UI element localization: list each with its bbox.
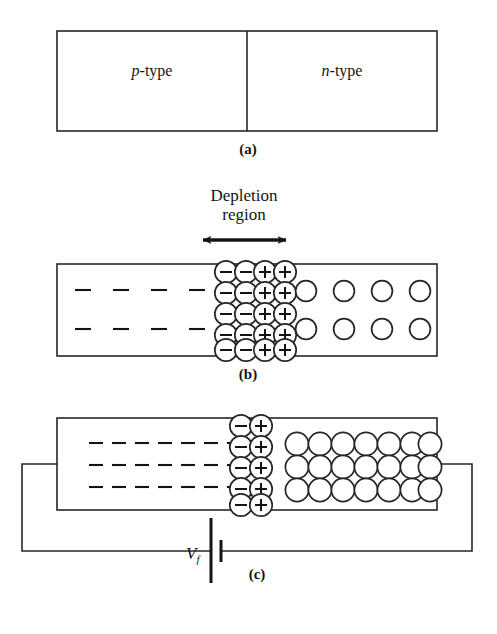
electron-circle xyxy=(418,455,441,478)
electron-circle xyxy=(285,432,308,455)
ion-negative xyxy=(215,339,237,361)
panel-b-label: (b) xyxy=(218,366,278,383)
panel-b-negative-ions xyxy=(215,261,257,361)
electron-circle xyxy=(285,478,308,501)
panel-c-label: (c) xyxy=(227,566,287,583)
electron-circle xyxy=(354,455,377,478)
electron-circle xyxy=(418,478,441,501)
panel-c-negative-ions xyxy=(230,415,252,516)
electron-circle xyxy=(377,432,400,455)
panel-c-group xyxy=(22,415,472,583)
forward-voltage-label: Vf xyxy=(186,544,199,565)
pn-junction-figure: p-type n-type (a) Depletion region (b) V… xyxy=(0,0,497,634)
ion-positive xyxy=(254,339,276,361)
panel-b-depletion-region xyxy=(215,261,296,361)
n-type-label: n-type xyxy=(297,62,387,80)
depletion-region-label-line1: Depletion xyxy=(184,186,304,205)
battery-symbol xyxy=(211,518,221,583)
ion-positive xyxy=(250,494,272,516)
ion-positive xyxy=(250,436,272,458)
electron-circle xyxy=(331,432,354,455)
ion-positive xyxy=(254,261,276,283)
depletion-region-label: Depletion region xyxy=(184,186,304,224)
electron-circle xyxy=(285,455,308,478)
p-type-label-italic: p xyxy=(132,62,140,79)
ion-positive xyxy=(250,457,272,479)
electron-circle xyxy=(354,478,377,501)
ion-negative xyxy=(230,415,252,437)
panel-b-positive-ions xyxy=(254,261,296,361)
ion-negative xyxy=(230,494,252,516)
panel-c-n-side-carriers xyxy=(285,432,441,501)
ion-positive xyxy=(274,339,296,361)
ion-positive xyxy=(274,303,296,325)
ion-positive xyxy=(274,261,296,283)
electron-circle xyxy=(296,319,317,340)
ion-positive xyxy=(254,282,276,304)
electron-circle xyxy=(377,478,400,501)
electron-circle xyxy=(308,478,331,501)
ion-negative xyxy=(230,436,252,458)
ion-positive xyxy=(274,282,296,304)
depletion-region-label-line2: region xyxy=(184,205,304,224)
ion-negative xyxy=(215,303,237,325)
p-type-label-rest: -type xyxy=(140,62,173,79)
electron-circle xyxy=(331,455,354,478)
ion-negative xyxy=(215,282,237,304)
ion-negative xyxy=(230,457,252,479)
electron-circle xyxy=(418,432,441,455)
panel-c-depletion-region xyxy=(230,415,272,516)
electron-circle xyxy=(334,281,355,302)
figure-canvas xyxy=(0,0,497,634)
electron-circle xyxy=(410,319,431,340)
electron-circle xyxy=(308,432,331,455)
electron-circle xyxy=(377,455,400,478)
electron-circle xyxy=(410,281,431,302)
panel-a-group xyxy=(57,31,437,131)
ion-positive xyxy=(254,303,276,325)
electron-circle xyxy=(372,281,393,302)
panel-a-label: (a) xyxy=(218,141,278,158)
electron-circle xyxy=(331,478,354,501)
panel-c-positive-ions xyxy=(250,415,272,516)
forward-voltage-symbol: V xyxy=(186,544,196,563)
electron-circle xyxy=(354,432,377,455)
ion-positive xyxy=(250,415,272,437)
electron-circle xyxy=(372,319,393,340)
ion-negative xyxy=(215,261,237,283)
electron-circle xyxy=(296,281,317,302)
panel-b-group xyxy=(57,261,437,361)
forward-voltage-subscript: f xyxy=(196,553,199,565)
electron-circle xyxy=(334,319,355,340)
n-type-label-italic-text: n-type xyxy=(322,62,363,79)
electron-circle xyxy=(308,455,331,478)
p-type-label: p-type xyxy=(107,62,197,80)
